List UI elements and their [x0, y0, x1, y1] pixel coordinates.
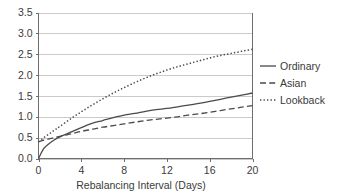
series-line-ordinary: [39, 93, 253, 158]
x-tick-label: 8: [121, 164, 127, 176]
legend-label-lookback: Lookback: [280, 94, 326, 106]
gridlines-group: [39, 14, 253, 160]
axes-group: [39, 13, 253, 159]
y-tick-label: 0.0: [18, 152, 33, 164]
x-tick-label: 12: [161, 164, 173, 176]
x-tick-labels-group: 048121620: [36, 164, 259, 176]
y-tick-label: 2.5: [18, 48, 33, 60]
x-tick-label: 16: [204, 164, 216, 176]
y-tick-label: 3.0: [18, 27, 33, 39]
series-line-lookback: [39, 49, 253, 142]
y-tick-label: 0.5: [18, 131, 33, 143]
x-tick-label: 4: [78, 164, 84, 176]
x-tick-label: 0: [36, 164, 42, 176]
y-tick-label: 3.5: [18, 6, 33, 18]
legend-label-ordinary: Ordinary: [280, 60, 321, 72]
y-tick-label: 2.0: [18, 69, 33, 81]
chart-legend: OrdinaryAsianLookback: [260, 60, 326, 106]
line-chart: 0.00.51.01.52.02.53.03.5 048121620 Ordin…: [0, 0, 340, 196]
y-tick-labels-group: 0.00.51.01.52.02.53.03.5: [18, 6, 33, 164]
y-tick-label: 1.5: [18, 90, 33, 102]
chart-container: 0.00.51.01.52.02.53.03.5 048121620 Ordin…: [0, 0, 340, 196]
x-tick-label: 20: [247, 164, 259, 176]
data-series-group: [39, 49, 253, 158]
x-axis-title: Rebalancing Interval (Days): [76, 179, 206, 191]
y-tick-label: 1.0: [18, 110, 33, 122]
tick-marks-group: [36, 14, 254, 162]
legend-label-asian: Asian: [280, 77, 306, 89]
